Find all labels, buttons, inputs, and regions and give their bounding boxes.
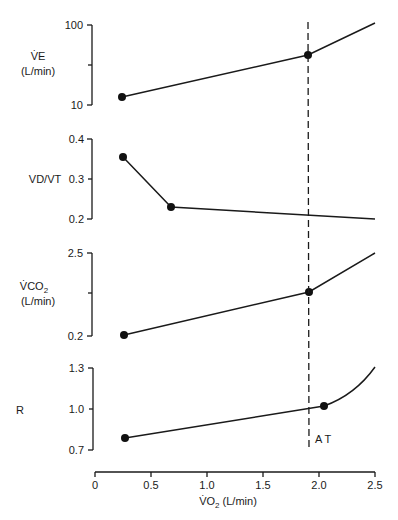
r-tick-1.0: 1.0	[69, 403, 84, 415]
ve-panel: V̇E (L/min) 100 10	[21, 19, 375, 111]
vdvt-tick-0.4: 0.4	[69, 133, 84, 145]
vdvt-ylabel: VD/VT	[29, 173, 62, 185]
r-line	[125, 367, 375, 438]
vdvt-tick-0.3: 0.3	[69, 173, 84, 185]
ve-line	[122, 23, 375, 97]
vco2-panel: V̇CO2 (L/min) 2.5 0.2	[20, 247, 375, 342]
x-axis-label: V̇O2 (L/min)	[199, 495, 257, 510]
vdvt-tick-0.2: 0.2	[69, 213, 84, 225]
vco2-ylabel-unit: (L/min)	[21, 295, 55, 307]
ve-ylabel: V̇E	[31, 50, 46, 62]
x-axis: 0 0.5 1.0 1.5 2.0 2.5 V̇O2 (L/min)	[92, 472, 383, 510]
x-tick-2.5: 2.5	[367, 479, 382, 491]
x-tick-0.5: 0.5	[143, 479, 158, 491]
anaerobic-threshold-line	[308, 22, 309, 450]
x-tick-1.0: 1.0	[199, 479, 214, 491]
r-tick-0.7: 0.7	[69, 444, 84, 456]
vdvt-point	[119, 153, 127, 161]
ve-ylabel-unit: (L/min)	[21, 65, 55, 77]
vco2-tick-2.5: 2.5	[68, 247, 83, 259]
ve-point	[118, 93, 126, 101]
physiology-chart: V̇E (L/min) 100 10 VD/VT 0.4 0.3 0.2 V̇C…	[0, 0, 398, 520]
vco2-line	[124, 253, 375, 335]
ve-tick-10: 10	[71, 99, 83, 111]
x-tick-1.5: 1.5	[255, 479, 270, 491]
x-tick-2.0: 2.0	[311, 479, 326, 491]
vdvt-panel: VD/VT 0.4 0.3 0.2	[29, 133, 375, 225]
r-tick-1.3: 1.3	[69, 362, 84, 374]
vdvt-line	[123, 157, 375, 219]
x-tick-0: 0	[92, 479, 98, 491]
anaerobic-threshold-label: A T	[315, 433, 332, 445]
ve-tick-100: 100	[65, 19, 83, 31]
r-point	[320, 402, 328, 410]
vco2-tick-0.2: 0.2	[68, 330, 83, 342]
vco2-point	[120, 331, 128, 339]
vco2-ylabel: V̇CO2	[20, 280, 49, 295]
vdvt-point	[167, 203, 175, 211]
r-point	[121, 434, 129, 442]
r-ylabel: R	[16, 404, 24, 416]
